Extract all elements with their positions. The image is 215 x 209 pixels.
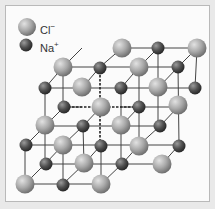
chloride-ion [169,96,188,115]
legend-chloride-swatch [18,18,36,36]
chloride-ion [54,136,73,155]
lattice-atoms [16,39,207,194]
sodium-ion [133,101,146,114]
chloride-ion [112,116,131,135]
sodium-ion [58,101,71,114]
chloride-ion [153,155,172,174]
legend [18,18,36,52]
sodium-ion [94,62,107,75]
legend-label-sodium: Na+ [40,39,59,54]
legend-sodium-swatch [20,39,33,52]
sodium-ion [39,82,52,95]
chloride-ion [16,175,35,194]
sodium-ion [116,158,129,171]
nacl-crystal-lattice [0,0,215,209]
chloride-ion [36,116,55,135]
chloride-ion [113,39,132,58]
sodium-ion [173,140,186,153]
sodium-ion [20,139,33,152]
chloride-ion [92,175,111,194]
chloride-ion [130,137,149,156]
chloride-ion [130,58,149,77]
chloride-ion [92,98,111,117]
chloride-ion [75,154,94,173]
sodium-ion [95,140,108,153]
sodium-ion [152,42,165,55]
chloride-ion [73,78,92,97]
sodium-ion [57,179,70,192]
sodium-ion [172,61,185,74]
sodium-ion [77,120,90,133]
sodium-ion [189,82,202,95]
sodium-ion [40,158,53,171]
chloride-ion [149,78,168,97]
sodium-ion [154,120,167,133]
sodium-ion [115,82,128,95]
legend-label-chloride: Cl− [40,21,55,36]
chloride-ion [188,39,207,58]
chloride-ion [54,58,73,77]
